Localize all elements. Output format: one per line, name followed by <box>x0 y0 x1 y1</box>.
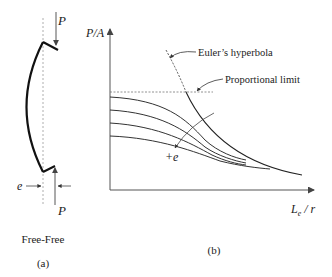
panel-a-column-diagram: P P e Free-Free (a) <box>17 12 71 270</box>
bottom-bracket <box>43 166 55 172</box>
x-axis-label: Le / r <box>290 202 316 218</box>
euler-leader <box>170 52 196 58</box>
bowed-column <box>27 42 44 172</box>
increasing-e-label: +e <box>165 150 179 164</box>
panel-b-chart: P/A Le / r +e Euler’s hyperbola Proporti… <box>85 26 316 257</box>
euler-hyperbola-dashed <box>166 50 186 92</box>
euler-hyperbola-label: Euler’s hyperbola <box>198 47 273 58</box>
end-condition-label: Free-Free <box>22 233 65 245</box>
eccentricity-label: e <box>17 179 23 193</box>
bottom-load-label: P <box>57 203 66 218</box>
top-load-label: P <box>57 13 66 28</box>
figure-canvas: P P e Free-Free (a) P/A Le / r +e Euler’… <box>0 0 332 277</box>
proportional-leader <box>197 79 223 91</box>
panel-b-caption: (b) <box>208 244 221 257</box>
y-axis-label: P/A <box>85 26 105 40</box>
secant-curve-4 <box>110 136 270 169</box>
panel-a-caption: (a) <box>37 257 50 270</box>
proportional-limit-label: Proportional limit <box>225 74 300 85</box>
